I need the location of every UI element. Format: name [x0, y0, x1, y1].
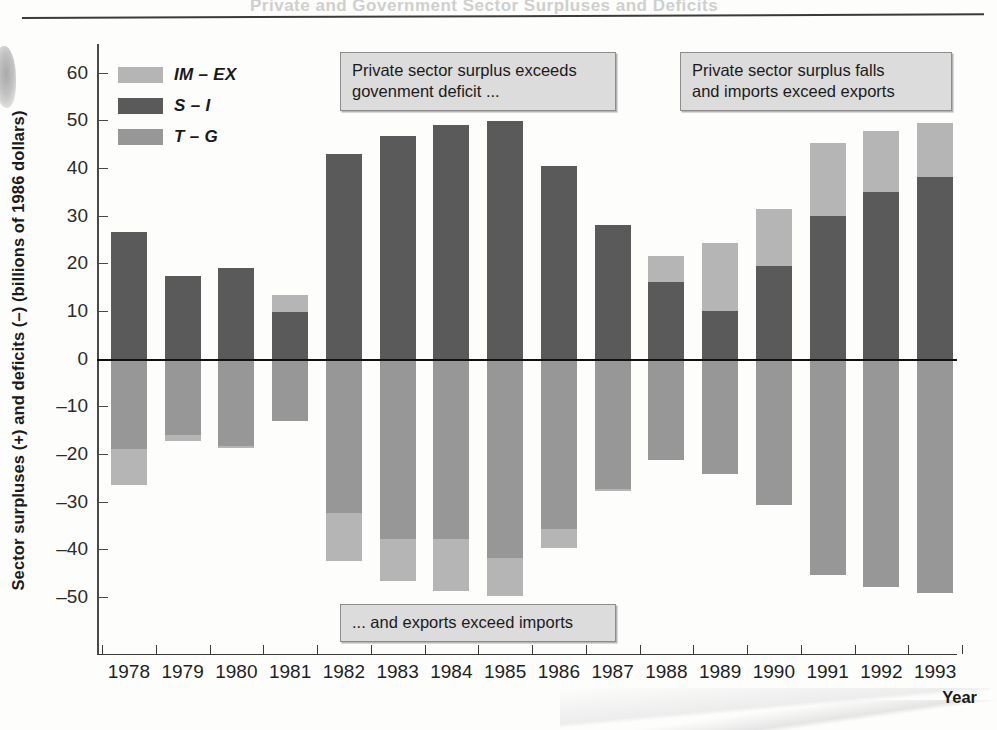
bar-segment-si — [595, 225, 631, 358]
x-axis-tick-label: 1987 — [591, 661, 633, 683]
legend-item-tg: T – G — [118, 121, 237, 152]
x-axis-tick — [478, 645, 479, 654]
annotation-callout-surplus-falls: Private sector surplus falls and imports… — [680, 52, 952, 111]
bar-segment-si — [702, 311, 738, 359]
bar-segment-tg — [810, 359, 846, 576]
bar-segment-imex — [863, 131, 899, 192]
x-axis-tick — [962, 645, 963, 654]
x-axis-tick — [102, 645, 103, 654]
bar-segment-tg — [326, 359, 362, 514]
bar-group — [863, 44, 899, 654]
bar-segment-tg — [487, 359, 523, 558]
legend-item-imex: IM – EX — [118, 59, 237, 90]
x-axis-tick — [855, 645, 856, 654]
bar-group — [702, 44, 738, 654]
bar-segment-imex — [595, 489, 631, 491]
x-axis-tick-label: 1984 — [430, 661, 472, 683]
y-axis-spine — [97, 44, 99, 654]
bar-segment-si — [272, 312, 308, 358]
x-axis-tick — [317, 645, 318, 654]
bar-segment-tg — [380, 359, 416, 539]
legend-swatch-si — [118, 98, 163, 114]
bar-segment-tg — [433, 359, 469, 539]
bar-segment-tg — [595, 359, 631, 489]
x-axis-tick-label: 1989 — [699, 661, 741, 683]
bar-segment-imex — [541, 529, 577, 548]
x-axis-spine — [97, 654, 957, 655]
x-axis-tick — [371, 645, 372, 654]
x-axis-tick — [640, 645, 641, 654]
bar-segment-si — [111, 232, 147, 358]
x-axis-tick — [263, 645, 264, 654]
y-axis-title: Sector surpluses (+) and deficits (–) (b… — [2, 50, 36, 650]
annotation-callout-private-surplus-exceeds: Private sector surplus exceeds govenment… — [340, 52, 616, 111]
y-axis-tick-label: –50 — [56, 586, 88, 608]
bar-segment-tg — [756, 359, 792, 506]
page-fold-shadow — [560, 688, 990, 728]
y-axis-tick-label: 10 — [67, 300, 88, 322]
zero-baseline — [97, 359, 957, 361]
bar-segment-imex — [756, 209, 792, 265]
bar-segment-si — [917, 177, 953, 358]
bar-segment-imex — [165, 435, 201, 441]
x-axis-tick-label: 1983 — [376, 661, 418, 683]
x-axis-title: Year — [942, 688, 977, 707]
bar-group — [541, 44, 577, 654]
x-axis-tick-label: 1980 — [215, 661, 257, 683]
x-axis-tick-label: 1985 — [484, 661, 526, 683]
legend-swatch-tg — [118, 129, 163, 145]
x-axis-tick-label: 1990 — [753, 661, 795, 683]
bar-segment-tg — [111, 359, 147, 450]
bar-group — [272, 44, 308, 654]
bar-group — [917, 44, 953, 654]
bar-segment-si — [810, 216, 846, 359]
legend-item-si: S – I — [118, 90, 237, 121]
bar-segment-imex — [702, 243, 738, 311]
x-axis-tick — [693, 645, 694, 654]
bar-segment-si — [326, 154, 362, 359]
bar-group — [380, 44, 416, 654]
chart-legend: IM – EXS – IT – G — [118, 59, 237, 152]
bar-group — [810, 44, 846, 654]
x-axis-tick-label: 1979 — [161, 661, 203, 683]
bar-segment-imex — [810, 143, 846, 216]
page-fold-shadow-secondary — [600, 700, 997, 730]
bar-segment-tg — [917, 359, 953, 594]
x-axis-tick-label: 1992 — [860, 661, 902, 683]
y-axis-tick — [97, 406, 108, 407]
x-axis-tick — [532, 645, 533, 654]
y-axis-tick-label: 50 — [67, 109, 88, 131]
y-axis-tick-label: 60 — [67, 62, 88, 84]
bar-segment-si — [756, 266, 792, 359]
y-axis-tick — [97, 502, 108, 503]
x-axis-tick-label: 1986 — [538, 661, 580, 683]
y-axis-title-text: Sector surpluses (+) and deficits (–) (b… — [10, 110, 29, 590]
annotation-callout-exports-exceed: ... and exports exceed imports — [340, 604, 616, 642]
x-axis-tick-label: 1982 — [323, 661, 365, 683]
bar-segment-imex — [917, 123, 953, 178]
bar-group — [648, 44, 684, 654]
y-axis-tick-label: 30 — [67, 205, 88, 227]
bar-segment-tg — [648, 359, 684, 461]
x-axis-tick — [747, 645, 748, 654]
y-axis-tick-label: –30 — [56, 491, 88, 513]
bar-segment-si — [433, 125, 469, 359]
bar-group — [487, 44, 523, 654]
y-axis-tick — [97, 454, 108, 455]
y-axis-tick — [97, 73, 108, 74]
x-axis-tick — [425, 645, 426, 654]
bar-segment-si — [218, 268, 254, 359]
bar-segment-imex — [380, 539, 416, 581]
legend-label: IM – EX — [174, 65, 237, 85]
bar-segment-tg — [272, 359, 308, 422]
bar-segment-imex — [218, 446, 254, 448]
legend-label: S – I — [174, 96, 210, 116]
x-axis-tick — [156, 645, 157, 654]
bar-segment-imex — [648, 256, 684, 282]
y-axis-tick — [97, 216, 108, 217]
bar-segment-si — [648, 282, 684, 358]
bar-segment-si — [863, 192, 899, 359]
x-axis-tick-label: 1978 — [108, 661, 150, 683]
bar-group — [433, 44, 469, 654]
bar-segment-tg — [863, 359, 899, 588]
